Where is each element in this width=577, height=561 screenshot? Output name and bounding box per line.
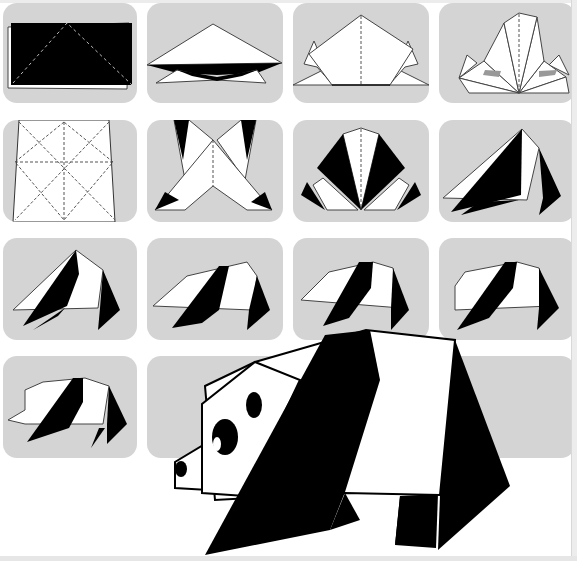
right-page-edge [571,0,577,561]
step-6-illustration [147,120,283,222]
step-panel-4: Step 4 [439,3,575,103]
step-panel-11: Step 11 [293,238,429,340]
step-3-illustration [293,3,429,103]
step-7-illustration [293,120,429,222]
step-13-illustration [3,356,137,458]
step-panel-7: Step 7 [293,120,429,222]
final-panel-background: Finished panda [147,356,575,458]
step-1-illustration [3,3,137,103]
step-9-illustration [3,238,137,340]
step-panel-13: Step 13 [3,356,137,458]
step-panel-2: Step 2 [147,3,283,103]
step-10-illustration [147,238,283,340]
step-panel-6: Step 6 [147,120,283,222]
step-label: Finished panda [147,356,148,357]
step-4-illustration [439,3,575,103]
step-panel-12: Step 12 [439,238,575,340]
step-panel-5: Step 5 [3,120,137,222]
step-panel-3: Step 3 [293,3,429,103]
step-11-illustration [293,238,429,340]
step-panel-10: Step 10 [147,238,283,340]
step-12-illustration [439,238,575,340]
step-8-illustration [439,120,575,222]
step-2-illustration [147,3,283,103]
step-5-illustration [3,120,137,222]
step-panel-9: Step 9 [3,238,137,340]
step-panel-8: Step 8 [439,120,575,222]
bottom-page-edge [0,556,577,561]
step-panel-1: Step 1 [3,3,137,103]
